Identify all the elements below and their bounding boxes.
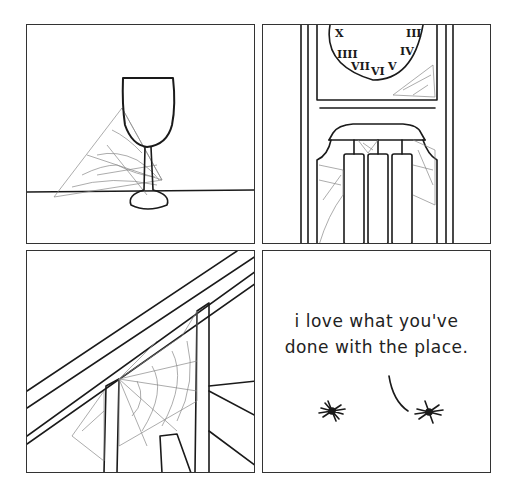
svg-text:IV: IV xyxy=(400,45,414,58)
cobweb xyxy=(54,108,162,197)
svg-text:III: III xyxy=(406,27,421,40)
spider-right-icon xyxy=(415,401,443,423)
wine-glass-illustration xyxy=(27,25,255,244)
wine-glass xyxy=(123,78,175,209)
comic-panel-grandfather-clock: XIII IIIIIV VIIVIV xyxy=(262,24,491,244)
svg-text:X: X xyxy=(335,27,344,40)
comic-panel-spiders-dialogue: i love what you've done with the place. xyxy=(262,250,491,473)
clock-illustration: XIII IIIIIV VIIVIV xyxy=(263,25,491,244)
spider-left-icon xyxy=(319,401,345,421)
clock-numerals: XIII IIIIIV VIIVIV xyxy=(335,27,421,78)
comic-panel-staircase xyxy=(26,250,255,473)
staircase-illustration xyxy=(27,251,255,473)
comic-panel-wine-glass xyxy=(26,24,255,244)
svg-text:VI: VI xyxy=(370,65,385,78)
spiders-illustration xyxy=(263,251,491,473)
svg-text:VII: VII xyxy=(350,60,370,73)
speech-tail xyxy=(389,376,408,411)
svg-text:V: V xyxy=(387,60,397,73)
